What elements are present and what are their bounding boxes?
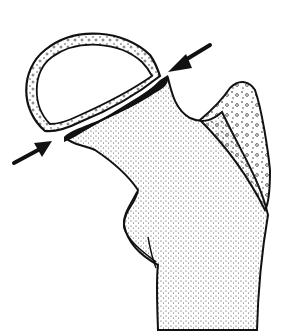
upper-right-arrow-icon — [168, 45, 210, 72]
lower-left-arrow-icon — [14, 141, 52, 163]
femur-illustration — [0, 0, 299, 336]
illustration-canvas: Line illustration of proximal femur with… — [0, 0, 299, 336]
